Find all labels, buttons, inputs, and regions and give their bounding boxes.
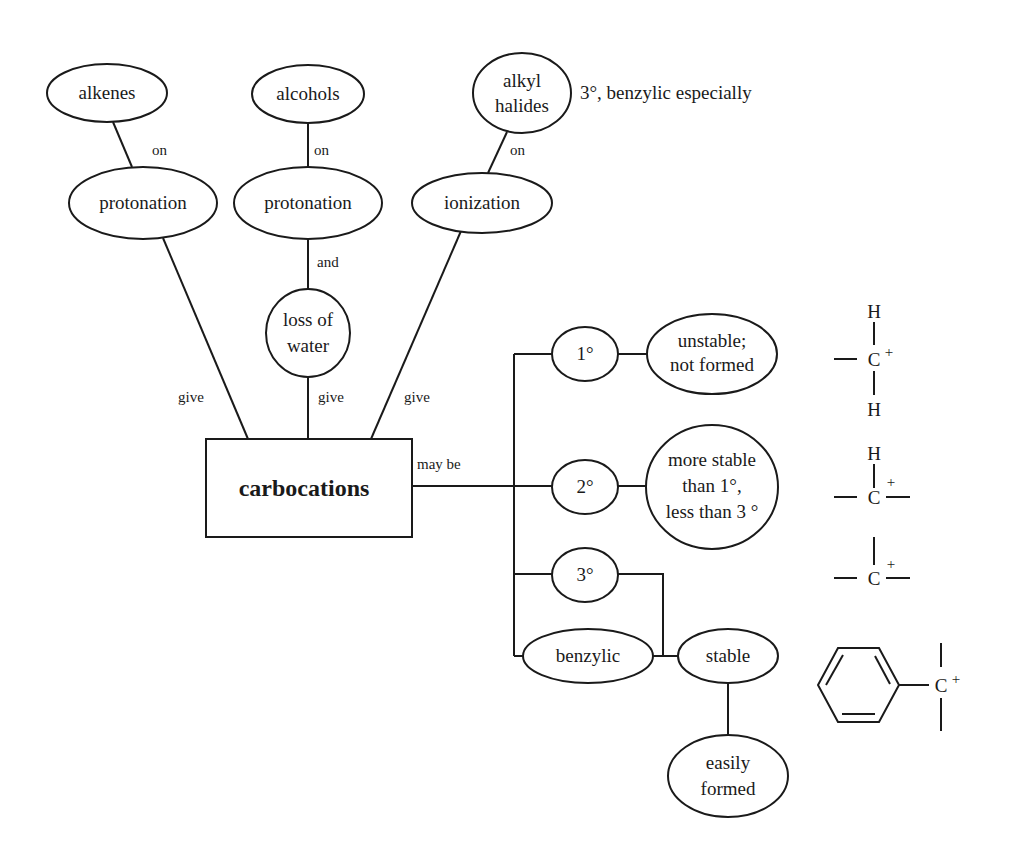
svg-text:+: + <box>885 344 893 360</box>
svg-text:formed: formed <box>701 778 756 799</box>
svg-text:unstable;: unstable; <box>678 330 747 351</box>
svg-text:H: H <box>867 399 881 420</box>
svg-text:alcohols: alcohols <box>276 83 339 104</box>
svg-text:+: + <box>887 474 895 490</box>
label-on-alkyl-halides: on <box>510 142 526 158</box>
label-give-middle: give <box>318 389 344 405</box>
structure-secondary-carbocation: H C + <box>834 443 910 508</box>
structure-tertiary-carbocation: C + <box>834 537 910 589</box>
label-and: and <box>317 254 339 270</box>
svg-text:water: water <box>287 335 330 356</box>
label-give-right: give <box>404 389 430 405</box>
node-ionization: ionization <box>412 173 552 233</box>
svg-text:C: C <box>868 568 881 589</box>
svg-text:carbocations: carbocations <box>239 475 370 501</box>
structure-primary-carbocation: H C + H <box>834 301 893 420</box>
svg-text:more stable: more stable <box>668 449 756 470</box>
svg-text:H: H <box>867 443 881 464</box>
svg-text:less than 3 °: less than 3 ° <box>666 501 759 522</box>
svg-text:H: H <box>867 301 881 322</box>
concept-map: on on on and give give give may be alken… <box>0 0 1010 865</box>
edge-alkenes-protonation <box>113 122 132 167</box>
svg-text:C: C <box>868 349 881 370</box>
node-primary: 1° <box>552 327 618 381</box>
svg-text:protonation: protonation <box>264 192 352 213</box>
svg-text:loss of: loss of <box>283 309 334 330</box>
svg-text:protonation: protonation <box>99 192 187 213</box>
svg-text:than 1°,: than 1°, <box>682 475 741 496</box>
svg-text:alkenes: alkenes <box>79 82 136 103</box>
svg-text:easily: easily <box>706 752 751 773</box>
benzene-ring-icon <box>818 648 899 722</box>
node-protonation-2: protonation <box>234 167 382 239</box>
node-carbocations: carbocations <box>206 439 412 537</box>
svg-text:C: C <box>935 675 948 696</box>
label-give-left: give <box>178 389 204 405</box>
node-easily-formed: easily formed <box>668 735 788 817</box>
svg-text:C: C <box>868 487 881 508</box>
svg-text:ionization: ionization <box>444 192 520 213</box>
svg-text:halides: halides <box>495 95 549 116</box>
node-secondary: 2° <box>552 460 618 514</box>
svg-text:3°: 3° <box>576 564 593 585</box>
node-benzylic: benzylic <box>523 629 653 683</box>
label-on-alcohols: on <box>314 142 330 158</box>
svg-text:alkyl: alkyl <box>503 70 541 91</box>
svg-text:stable: stable <box>706 645 750 666</box>
node-more-stable: more stable than 1°, less than 3 ° <box>646 425 778 549</box>
edge-ionization-carbocations <box>371 231 461 439</box>
node-tertiary: 3° <box>552 548 618 602</box>
node-stable: stable <box>678 629 778 683</box>
structure-benzylic-carbocation: C + <box>818 643 960 731</box>
node-alkyl-halides: alkyl halides <box>473 53 571 133</box>
svg-text:2°: 2° <box>576 476 593 497</box>
svg-text:not formed: not formed <box>670 354 754 375</box>
node-alcohols: alcohols <box>252 65 364 123</box>
node-alkenes: alkenes <box>47 64 167 122</box>
node-protonation-1: protonation <box>69 167 217 239</box>
svg-text:+: + <box>887 556 895 572</box>
node-unstable: unstable; not formed <box>647 314 777 394</box>
edge-alkylhalides-ionization <box>488 132 507 173</box>
svg-text:+: + <box>952 671 960 687</box>
annotation-alkyl-halides: 3°, benzylic especially <box>580 82 752 103</box>
edge-protonation1-carbocations <box>163 238 248 439</box>
svg-text:benzylic: benzylic <box>556 645 620 666</box>
svg-text:1°: 1° <box>576 343 593 364</box>
node-loss-of-water: loss of water <box>266 289 350 377</box>
label-on-alkenes: on <box>152 142 168 158</box>
label-may-be: may be <box>417 456 461 472</box>
